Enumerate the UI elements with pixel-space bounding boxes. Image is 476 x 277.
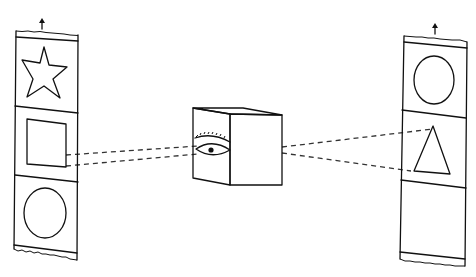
square-shape <box>27 119 66 167</box>
sight-line-right-top <box>282 129 433 147</box>
sight-line-left-bottom <box>66 154 198 166</box>
torn-edge-bottom <box>400 259 465 266</box>
sight-line-right-bottom <box>282 153 411 171</box>
sight-line-left-top <box>66 146 198 155</box>
strip-left-side <box>14 31 16 249</box>
strip-left-side <box>400 36 404 259</box>
torn-edge-bottom <box>14 249 77 260</box>
torn-edge-top <box>16 31 78 36</box>
circle-shape <box>414 56 454 104</box>
left-film-strip <box>14 18 78 260</box>
strip-right-side <box>465 42 467 266</box>
torn-edge-top <box>404 36 467 42</box>
diagram-canvas <box>0 0 476 277</box>
sight-lines <box>66 129 433 171</box>
right-film-strip <box>400 23 467 266</box>
strip-right-side <box>77 35 78 260</box>
eye-icon <box>195 132 230 155</box>
circle-shape <box>24 188 66 238</box>
triangle-shape <box>414 126 450 174</box>
cube-right-face <box>230 114 282 185</box>
up-arrow-icon <box>39 18 45 29</box>
eye-cube <box>193 108 282 185</box>
up-arrow-icon <box>432 23 438 34</box>
star-shape <box>22 47 67 98</box>
